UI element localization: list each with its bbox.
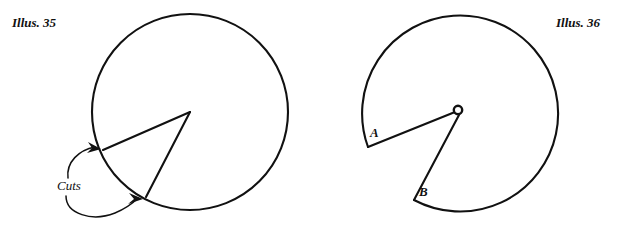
figure-canvas: Illus. 35 Cuts Illus. 36 xyxy=(0,0,640,226)
illus-35-cut-line-lower xyxy=(146,112,190,197)
illus-36-center-hub-icon xyxy=(454,106,462,114)
illus-35-caption: Illus. 35 xyxy=(11,15,57,30)
illus-35-group: Illus. 35 Cuts xyxy=(11,14,288,217)
illus-36-point-label-b: B xyxy=(418,184,428,199)
illus-35-cuts-arrow-upper-icon xyxy=(68,142,101,178)
illus-35-cuts-arrow-lower-icon xyxy=(66,193,143,217)
illus-35-cut-line-upper xyxy=(103,112,190,150)
illustration-pair-figure: Illus. 35 Cuts Illus. 36 xyxy=(0,0,640,226)
illus-36-caption: Illus. 36 xyxy=(555,15,601,30)
illus-36-group: Illus. 36 A B xyxy=(362,15,600,212)
illus-35-cuts-label: Cuts xyxy=(57,178,81,193)
illus-36-point-label-a: A xyxy=(369,125,379,140)
illus-36-edge-a xyxy=(368,112,455,147)
